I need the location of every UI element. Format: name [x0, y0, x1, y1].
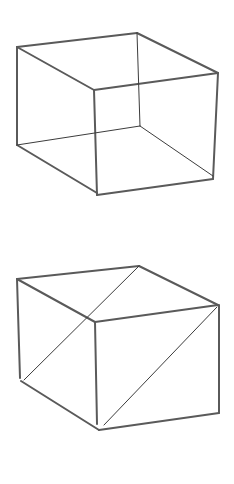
cube-edge — [213, 73, 218, 179]
cube-edge — [17, 47, 94, 90]
cube-edge — [17, 266, 139, 279]
cube-edge — [17, 145, 97, 193]
cube-edge — [95, 322, 97, 424]
cube-edge — [17, 33, 137, 47]
hidden-or-diagonal-line — [137, 33, 140, 126]
cube-edge — [139, 266, 218, 305]
hidden-or-diagonal-line — [104, 307, 217, 425]
solid-cube-with-diagonals — [17, 266, 219, 430]
cube-drawings-canvas — [0, 0, 234, 484]
cube-edge — [95, 305, 218, 322]
cube-edge — [21, 381, 99, 430]
cube-edge — [97, 179, 213, 195]
cube-edge — [17, 279, 95, 322]
cube-edge — [94, 90, 97, 195]
hidden-or-diagonal-line — [17, 126, 140, 145]
cube-edge — [99, 413, 219, 430]
cube-edge — [17, 279, 20, 378]
hidden-or-diagonal-line — [24, 266, 139, 380]
cube-edge — [94, 73, 218, 90]
wireframe-cube-hidden-edges — [17, 33, 218, 195]
cube-edge — [137, 33, 218, 73]
hidden-or-diagonal-line — [140, 126, 213, 176]
